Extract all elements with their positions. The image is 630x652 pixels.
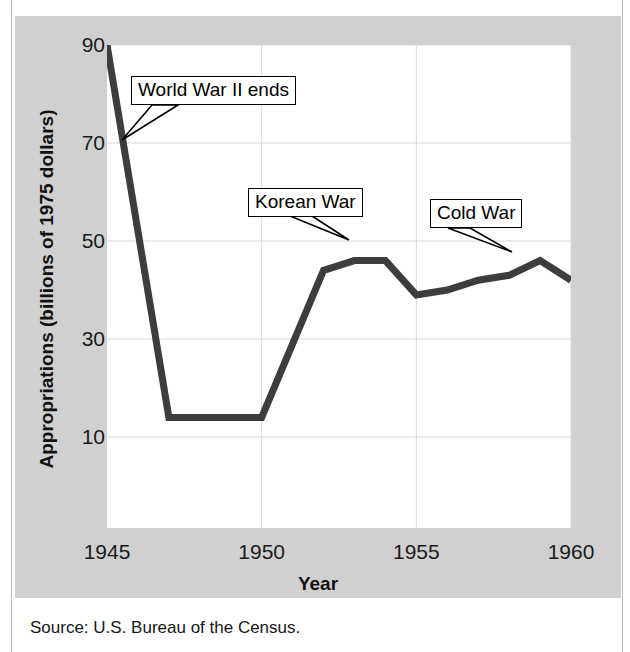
line-chart-svg [107, 45, 571, 528]
annotation-callout: Korean War [248, 188, 363, 217]
x-axis-tick-label: 1950 [222, 541, 302, 562]
y-axis-ticks: 1030507090 [55, 16, 105, 598]
source-note: Source: U.S. Bureau of the Census. [30, 618, 300, 638]
chart-panel: 1030507090 1945195019551960 Year Appropr… [15, 16, 621, 598]
x-axis-tick-label: 1960 [531, 541, 611, 562]
x-axis-ticks: 1945195019551960 [15, 541, 621, 575]
figure-right-rule [622, 0, 623, 652]
y-axis-tick-label: 70 [61, 132, 105, 153]
figure-container: 1030507090 1945195019551960 Year Appropr… [0, 0, 630, 652]
x-axis-tick-label: 1955 [376, 541, 456, 562]
y-axis-title: Appropriations (billions of 1975 dollars… [36, 69, 58, 509]
y-axis-tick-label: 10 [61, 426, 105, 447]
x-axis-title: Year [15, 573, 621, 595]
annotation-callout: World War II ends [131, 76, 296, 105]
annotation-callout: Cold War [430, 199, 522, 228]
x-axis-tick-label: 1945 [67, 541, 147, 562]
y-axis-tick-label: 30 [61, 328, 105, 349]
gridlines [107, 45, 571, 528]
y-axis-tick-label: 50 [61, 230, 105, 251]
plot-area [107, 45, 571, 528]
figure-left-rule [11, 0, 12, 652]
y-axis-tick-label: 90 [61, 34, 105, 55]
